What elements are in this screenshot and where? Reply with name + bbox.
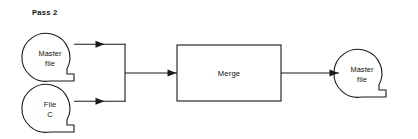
node-file-c-input[interactable]: File C <box>22 84 74 132</box>
connector-bus-to-merge <box>125 70 177 77</box>
connector-master-file-to-bus <box>74 41 126 48</box>
connector-merge-to-master-file <box>281 70 339 77</box>
node-label-line2: file <box>357 75 367 84</box>
diagram-canvas: Pass 2 Master file File C <box>0 0 418 139</box>
node-label-line1: File <box>44 100 56 109</box>
connector-file-c-to-bus <box>74 98 126 105</box>
node-master-file-input[interactable]: Master file <box>22 33 74 81</box>
node-label-line1: Master <box>350 65 374 74</box>
node-label-line2: file <box>45 59 55 68</box>
flowchart-diagram: Pass 2 Master file File C <box>0 0 418 139</box>
node-label-line1: Master <box>38 49 62 58</box>
node-master-file-output[interactable]: Master file <box>334 49 386 97</box>
node-merge-process[interactable]: Merge <box>177 45 281 101</box>
pass-label: Pass 2 <box>32 8 58 17</box>
node-label-line2: C <box>47 110 53 119</box>
merge-box-label: Merge <box>218 69 240 78</box>
